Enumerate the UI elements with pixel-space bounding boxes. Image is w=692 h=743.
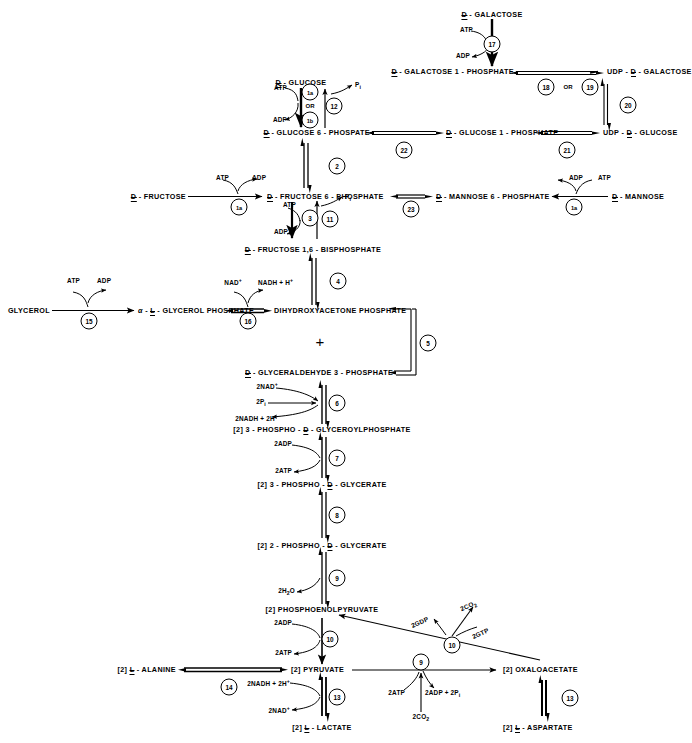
enzyme-21[interactable]: 18 [538, 79, 555, 96]
cofactor-2adp-pgk: 2ADP [274, 441, 292, 447]
metabolite-d-fructose-6-phosphate: D - FRUCTOSE 6 - PHOSPHATE [267, 193, 384, 200]
cofactor-nadh-h-g3pdh: NADH + H+ [258, 278, 293, 287]
cofactor-2nadh-2h-ldh: 2NADH + 2H+ [247, 679, 290, 688]
cofactor-adp-pfk: ADP [274, 229, 288, 235]
enzyme-14[interactable]: 11 [322, 211, 339, 228]
metabolite-d-galactose-1-phosphate: D - GALACTOSE 1 - PHOSPHATE [391, 68, 514, 75]
cofactor-2nadh-2h: 2NADH + 2H+ [235, 414, 278, 423]
enzyme-20[interactable]: 17 [484, 36, 501, 53]
or-label-galactose: OR [563, 84, 573, 90]
cofactor-2atp-pgk: 2ATP [275, 468, 292, 474]
metabolite-d-mannose-6-phosphate: D - MANNOSE 6 - PHOSPHATE [436, 193, 550, 200]
metabolite-l-lactate: [2] L - LACTATE [292, 724, 351, 731]
cofactor-atp-fructokinase: ATP [216, 175, 229, 181]
enzyme-24[interactable]: 21 [559, 142, 576, 159]
cofactor-pi-fbpase: Pi [345, 194, 351, 202]
cofactor-2gtp: 2GTP [471, 627, 490, 640]
cofactor-adp-galactokinase: ADP [456, 53, 470, 59]
cofactor-pi-g6pase: Pi [355, 82, 361, 90]
enzyme-1b[interactable]: 1b [302, 112, 319, 129]
cofactor-2co2-pepck: 2CO2 [460, 600, 479, 615]
cofactor-adp-fructokinase: ADP [252, 175, 266, 181]
cofactor-2nad-plus: 2NAD+ [257, 382, 278, 391]
cofactor-2atp-pc: 2ATP [388, 690, 405, 696]
metabolite-2-phospho-d-glycerate: [2] 2 - PHOSPHO - D - GLYCERATE [257, 542, 386, 549]
metabolite-d-mannose: D - MANNOSE [612, 193, 664, 200]
enzyme-3[interactable]: 3 [302, 210, 319, 227]
enzyme-18[interactable]: 15 [81, 313, 98, 330]
enzyme-8[interactable]: 8 [329, 507, 346, 524]
metabolite-d-fructose-16-bisphosphate: D - FRUCTOSE 1,6 - BISPHOSPHATE [245, 246, 381, 253]
cofactor-adp-mannose: ADP [569, 175, 583, 181]
cofactor-2adp-pk: 2ADP [274, 620, 292, 626]
cofactor-2adp-2pi-pc: 2ADP + 2Pi [425, 690, 461, 698]
metabolite-3-phospho-d-glycerate: [2] 3 - PHOSPHO - D - GLYCERATE [257, 481, 386, 488]
metabolite-13-bisphosphoglycerate: [2] 3 - PHOSPHO - D - GLYCEROYLPHOSPHATE [233, 426, 410, 433]
cofactor-atp-glycerol-kinase: ATP [67, 278, 80, 284]
metabolite-d-glucose-6-phosphate: D - GLUCOSE 6 - PHOSPATE [264, 129, 370, 136]
enzyme-9[interactable]: 9 [329, 570, 346, 587]
enzyme-23[interactable]: 20 [620, 97, 637, 114]
metabolite-d-fructose: D - FRUCTOSE [131, 193, 186, 200]
cofactor-atp-galactokinase: ATP [460, 27, 473, 33]
enzyme-10[interactable]: 10 [322, 631, 339, 648]
cofactor-nad-plus-g3pdh: NAD+ [224, 278, 242, 287]
metabolite-alpha-l-glycerol-phosphate: α - L - GLYCEROL PHOSPHATE [138, 307, 254, 314]
enzyme-25[interactable]: 22 [396, 142, 413, 159]
cofactor-atp-pfk: ATP [283, 202, 296, 208]
cofactor-2nad-plus-ldh: 2NAD+ [269, 706, 290, 715]
enzyme-1a[interactable]: 1a [302, 84, 319, 101]
enzyme-1a-fructose[interactable]: 1a [231, 199, 248, 216]
cofactor-adp-hexokinase: ADP [273, 117, 287, 123]
cofactor-2co2-pc: 2CO2 [413, 714, 430, 722]
enzyme-19[interactable]: 16 [240, 313, 257, 330]
enzyme-5[interactable]: 5 [420, 335, 437, 352]
metabolite-d-galactose: DD - GALACTOSE - GALACTOSE [461, 11, 522, 18]
or-label-hexokinase: OR [305, 103, 315, 109]
cofactor-atp-hexokinase: ATP [274, 85, 287, 91]
enzyme-1a-mannose[interactable]: 1a [566, 199, 583, 216]
enzyme-4[interactable]: 4 [330, 273, 347, 290]
cofactor-adp-glycerol-kinase: ADP [97, 278, 111, 284]
cofactor-2h2o: 2H2O [278, 588, 295, 596]
metabolite-l-alanine: [2] L - ALANINE [117, 666, 176, 673]
metabolite-udp-d-glucose: UDP - D - GLUCOSE [603, 129, 678, 136]
metabolite-glycerol: GLYCEROL [8, 307, 50, 314]
cofactor-atp-mannose: ATP [598, 175, 611, 181]
enzyme-12[interactable]: 9 [413, 654, 430, 671]
metabolite-oxaloacetate: [2] OXALOACETATE [503, 666, 578, 673]
metabolite-d-glyceraldehyde-3-phosphate: D - GLYCERALDEHYDE 3 - PHOSPHATE [245, 369, 393, 376]
cofactor-2atp-pk: 2ATP [275, 650, 292, 656]
enzyme-13[interactable]: 10 [444, 637, 461, 654]
enzyme-17[interactable]: 14 [221, 679, 238, 696]
metabolite-pyruvate: [2] PYRUVATE [291, 666, 344, 673]
enzyme-6[interactable]: 6 [329, 395, 346, 412]
cofactor-2gdp: 2GDP [410, 616, 429, 629]
plus-sign: + [316, 333, 325, 350]
metabolite-l-aspartate: [2] L - ASPARTATE [503, 724, 573, 731]
enzyme-22[interactable]: 19 [582, 79, 599, 96]
enzyme-16[interactable]: 13 [562, 690, 579, 707]
metabolite-d-glucose-1-phosphate: D - GLUCOSE 1 - PHOSPHATE [446, 129, 558, 136]
enzyme-2[interactable]: 2 [329, 158, 346, 175]
enzyme-26[interactable]: 23 [403, 201, 420, 218]
metabolite-phosphoenolpyruvate: [2] PHOSPHOENOLPYRUVATE [266, 606, 379, 613]
metabolite-dihydroxyacetone-phosphate: DIHYDROXYACETONE PHOSPHATE [274, 307, 406, 314]
enzyme-7[interactable]: 7 [329, 450, 346, 467]
enzyme-11[interactable]: 13 [329, 689, 346, 706]
cofactor-2pi: 2Pi [256, 399, 266, 407]
enzyme-15[interactable]: 12 [326, 98, 343, 115]
metabolite-udp-d-galactose: UDP - D - GALACTOSE [607, 68, 692, 75]
